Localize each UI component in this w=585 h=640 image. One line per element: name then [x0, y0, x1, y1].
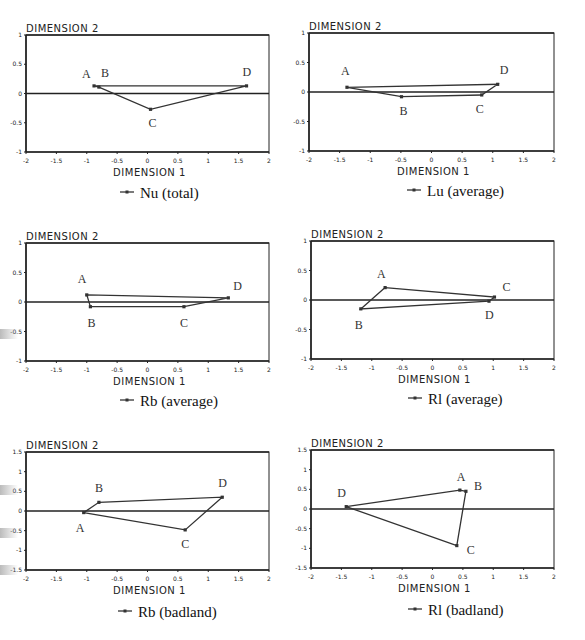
charts-canvas: DIMENSION 210.50-0.5-1-2-1.5-1-0.500.511…	[0, 0, 585, 640]
x-tick-label: -1	[84, 157, 90, 164]
point-label: D	[500, 63, 509, 77]
x-tick-label: 0	[146, 366, 150, 373]
x-tick-label: -2	[23, 157, 29, 164]
x-tick-label: 0	[431, 364, 435, 371]
x-tick-label: 2	[552, 573, 556, 580]
y-tick-label: -1	[299, 147, 305, 154]
x-tick-label: 0.5	[458, 364, 468, 371]
data-point-D	[345, 505, 348, 508]
x-tick-label: 1	[491, 364, 495, 371]
y-axis-label: DIMENSION 2	[311, 438, 384, 449]
legend-label: Rb (badland)	[138, 604, 217, 621]
legend-label: Rl (badland)	[428, 602, 503, 619]
point-label: C	[181, 537, 189, 551]
x-tick-label: -0.5	[395, 156, 407, 163]
x-tick-label: -2	[306, 156, 312, 163]
data-point-B	[464, 490, 467, 493]
x-tick-label: 2	[552, 364, 556, 371]
x-tick-label: -0.5	[111, 575, 123, 582]
x-tick-label: -1.5	[334, 156, 346, 163]
legend: Nu (total)	[120, 185, 199, 202]
series-line	[347, 84, 498, 96]
point-label: D	[485, 308, 494, 322]
y-axis-label: DIMENSION 2	[26, 231, 99, 242]
chart-panel-1: DIMENSION 210.50-0.5-1-2-1.5-1-0.500.511…	[10, 23, 271, 202]
point-label: C	[467, 543, 475, 557]
scan-artifact	[0, 485, 18, 495]
data-point-C	[493, 295, 496, 298]
y-tick-label: -1	[301, 355, 307, 362]
x-tick-label: -2	[308, 573, 314, 580]
x-tick-label: 1.5	[519, 156, 529, 163]
data-point-D	[245, 84, 248, 87]
x-tick-label: 1	[206, 575, 210, 582]
x-axis-label: DIMENSION 1	[113, 376, 186, 387]
x-tick-label: -0.5	[396, 573, 408, 580]
legend: Rb (badland)	[118, 604, 217, 621]
point-label: D	[243, 65, 252, 79]
y-tick-label: 1	[303, 466, 307, 473]
point-label: C	[149, 116, 157, 130]
x-tick-label: 0	[431, 573, 435, 580]
y-tick-label: 0	[18, 298, 22, 305]
y-tick-label: 0.5	[295, 59, 305, 66]
point-label: D	[337, 486, 346, 500]
x-tick-label: 2	[267, 366, 271, 373]
data-point-B	[97, 85, 100, 88]
chart-panel-6: DIMENSION 21.510.50-0.5-1-1.5-2-1.5-1-0.…	[295, 438, 556, 619]
data-point-B	[359, 307, 362, 310]
y-tick-label: 1	[18, 31, 22, 38]
x-tick-label: 0.5	[173, 366, 183, 373]
x-tick-label: 0.5	[173, 575, 183, 582]
chart-panel-5: DIMENSION 21.510.50-0.5-1-1.5-2-1.5-1-0.…	[10, 440, 271, 621]
legend-label: Rb (average)	[140, 393, 218, 410]
data-point-B	[89, 305, 92, 308]
point-label: B	[101, 66, 109, 80]
point-label: A	[457, 470, 466, 484]
point-label: C	[476, 102, 484, 116]
y-tick-label: 1	[18, 468, 22, 475]
y-tick-label: -0.5	[295, 326, 307, 333]
x-tick-label: 1	[206, 366, 210, 373]
series-line	[87, 295, 229, 307]
x-tick-label: 1	[491, 573, 495, 580]
legend: Rl (badland)	[408, 602, 503, 619]
legend: Lu (average)	[407, 183, 504, 200]
y-tick-label: 1	[301, 29, 305, 36]
data-point-A	[82, 511, 85, 514]
point-label: C	[502, 280, 510, 294]
x-tick-label: 1	[206, 157, 210, 164]
y-tick-label: 0.5	[297, 267, 307, 274]
data-point-D	[496, 83, 499, 86]
point-label: A	[76, 521, 85, 535]
data-point-D	[221, 496, 224, 499]
x-tick-label: -0.5	[111, 157, 123, 164]
scan-artifact	[0, 565, 18, 575]
y-tick-label: 0.5	[12, 60, 22, 67]
x-tick-label: 0.5	[457, 156, 467, 163]
legend: Rb (average)	[120, 393, 218, 410]
scan-artifact	[0, 329, 18, 339]
y-tick-label: -1.5	[295, 564, 307, 571]
x-tick-label: -0.5	[396, 364, 408, 371]
x-tick-label: -1.5	[336, 364, 348, 371]
y-axis-label: DIMENSION 2	[311, 229, 384, 240]
x-axis-label: DIMENSION 1	[397, 166, 470, 177]
data-point-A	[345, 86, 348, 89]
y-tick-label: -0.5	[295, 525, 307, 532]
x-tick-label: 1	[491, 156, 495, 163]
data-point-C	[480, 93, 483, 96]
data-point-C	[184, 528, 187, 531]
y-tick-label: -0.5	[10, 119, 22, 126]
y-tick-label: -1	[16, 357, 22, 364]
y-tick-label: 0	[303, 505, 307, 512]
data-point-A	[92, 84, 95, 87]
x-tick-label: -1	[84, 366, 90, 373]
point-label: A	[341, 64, 350, 78]
x-tick-label: 0.5	[173, 157, 183, 164]
x-tick-label: -2	[308, 364, 314, 371]
x-tick-label: 1.5	[519, 364, 529, 371]
point-label: B	[87, 316, 95, 330]
y-tick-label: 1.5	[12, 448, 22, 455]
x-tick-label: -1.5	[51, 157, 63, 164]
